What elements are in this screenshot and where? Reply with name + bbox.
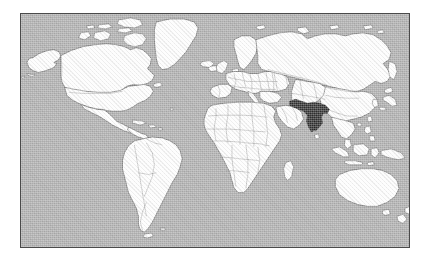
region-south-america[interactable]: [122, 137, 182, 238]
region-north-america[interactable]: [21, 18, 162, 139]
africa-landmass[interactable]: [204, 102, 282, 192]
sumatra: [331, 147, 349, 157]
java: [344, 161, 363, 165]
japan-main: [383, 95, 397, 106]
region-australia[interactable]: [335, 169, 409, 224]
balkans-landmass[interactable]: [260, 91, 282, 103]
madagascar: [284, 161, 294, 181]
aleutian-islands: [27, 73, 35, 76]
sulawesi: [371, 148, 379, 158]
region-greenland[interactable]: [154, 19, 214, 70]
ellesmere-island: [118, 18, 143, 28]
new-siberian-islands: [363, 25, 373, 30]
severnaya-zemlya: [329, 25, 339, 30]
baffin-island: [123, 33, 146, 47]
svalbard: [256, 25, 266, 30]
hispaniola: [148, 125, 156, 128]
victoria-island: [94, 31, 111, 41]
great-britain: [216, 61, 228, 74]
melville-island: [98, 24, 113, 29]
japan-north: [384, 87, 393, 93]
tasmania: [382, 209, 390, 215]
australia-landmass[interactable]: [335, 169, 399, 207]
new-zealand-north: [405, 206, 409, 214]
bermuda-islet: [170, 108, 173, 110]
falkland-islands: [160, 228, 165, 230]
taiwan: [367, 116, 372, 122]
banks-island: [79, 32, 91, 40]
novaya-zemlya: [298, 27, 310, 34]
philippines-north: [364, 126, 371, 134]
newfoundland: [153, 82, 162, 87]
arctic-islet-b: [377, 30, 384, 34]
borneo: [353, 144, 369, 156]
new-zealand-south: [397, 214, 407, 223]
cuba: [132, 120, 146, 125]
china-east-asia-landmass[interactable]: [319, 85, 377, 121]
tierra-del-fuego: [143, 233, 153, 238]
map-frame: [20, 13, 410, 248]
region-southeast-asia[interactable]: [331, 117, 405, 166]
scandinavia-landmass[interactable]: [234, 36, 258, 70]
aleutian-islands-west: [21, 76, 25, 78]
philippines-south: [369, 136, 375, 141]
sri-lanka: [314, 134, 319, 139]
world-map[interactable]: [21, 14, 409, 247]
locator-map-figure: [0, 0, 422, 262]
caribbean-islet: [158, 128, 162, 130]
timor: [367, 162, 374, 166]
indochina-peninsula[interactable]: [331, 117, 355, 139]
malay-peninsula: [344, 139, 351, 149]
new-guinea: [381, 149, 405, 160]
arctic-islet-a: [87, 25, 95, 29]
south-america-landmass[interactable]: [122, 137, 182, 232]
devon-island: [118, 28, 133, 33]
greenland-landmass[interactable]: [154, 19, 198, 70]
hainan: [357, 123, 361, 126]
japan-south: [379, 107, 386, 110]
iberian-peninsula[interactable]: [210, 84, 232, 98]
alaska-landmass[interactable]: [27, 50, 61, 73]
